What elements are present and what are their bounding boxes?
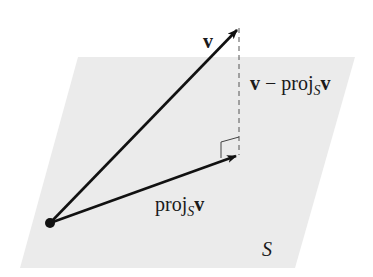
label-proj-main: proj	[155, 193, 187, 216]
label-diff-vec: v	[321, 72, 331, 94]
label-diff-sub: S	[314, 83, 321, 98]
label-proj-vec: v	[194, 193, 204, 215]
label-diff-minus-proj: − proj	[260, 72, 314, 95]
projection-diagram: v v − projSv projSv S	[0, 0, 373, 277]
origin-point	[45, 218, 55, 228]
label-v: v	[203, 30, 213, 52]
label-plane-s: S	[262, 238, 272, 260]
label-diff-v: v	[250, 72, 260, 94]
label-proj-sub: S	[187, 204, 194, 219]
